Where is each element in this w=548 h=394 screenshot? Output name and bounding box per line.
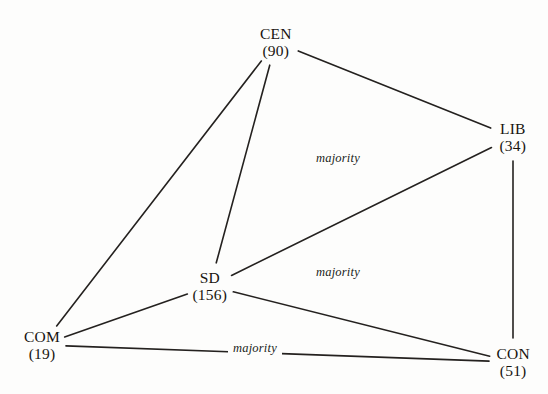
graph-node-sd[interactable]: SD(156) — [193, 269, 228, 304]
graph-node-name: SD — [193, 269, 228, 286]
coalition-diagram: CEN(90)LIB(34)SD(156)COM(19)CON(51) majo… — [0, 0, 548, 394]
edges-group — [57, 51, 513, 361]
graph-node-count: (34) — [500, 137, 527, 154]
graph-edge-cen-com — [57, 61, 262, 326]
graph-node-name: CEN — [260, 25, 292, 42]
edge-annotation-majority-bottom: majority — [228, 341, 282, 356]
graph-node-cen[interactable]: CEN(90) — [260, 25, 292, 60]
graph-node-count: (19) — [24, 345, 60, 362]
graph-edge-cen-sd — [216, 65, 269, 263]
graph-node-com[interactable]: COM(19) — [24, 328, 60, 363]
graph-edge-lib-sd — [232, 148, 492, 276]
graph-node-count: (51) — [497, 362, 530, 379]
graph-node-name: CON — [497, 345, 530, 362]
graph-node-count: (90) — [260, 42, 292, 59]
graph-node-lib[interactable]: LIB(34) — [500, 120, 527, 155]
graph-edge-sd-com — [65, 294, 188, 337]
edge-annotation-majority-upper: majority — [316, 151, 360, 166]
graph-edge-cen-lib — [298, 51, 490, 128]
edge-annotation-majority-middle: majority — [316, 265, 360, 280]
graph-node-name: LIB — [500, 120, 527, 137]
graph-node-count: (156) — [193, 286, 228, 303]
graph-node-con[interactable]: CON(51) — [497, 345, 530, 380]
graph-node-name: COM — [24, 328, 60, 345]
